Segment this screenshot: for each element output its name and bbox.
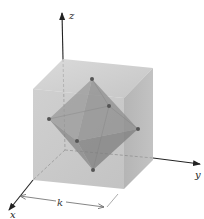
- vertex-front: [75, 139, 79, 143]
- vertex-top: [90, 77, 94, 81]
- dimension-label: k: [57, 197, 63, 208]
- x-axis-label: x: [10, 209, 16, 219]
- vertex-left: [47, 117, 51, 121]
- vertex-bottom: [91, 168, 95, 172]
- y-axis: [153, 158, 200, 164]
- dimension-tick-right: [107, 194, 118, 207]
- vertex-back: [107, 104, 111, 108]
- dimension-line-left: [20, 196, 56, 201]
- z-axis-label: z: [68, 10, 75, 21]
- vertex-right: [136, 127, 140, 131]
- y-axis-label: y: [194, 169, 201, 180]
- octahedron-in-cube-diagram: k z y x: [0, 0, 204, 219]
- x-axis: [9, 180, 33, 210]
- z-axis: [62, 13, 63, 59]
- dimension-k: k: [20, 194, 118, 208]
- dimension-line-right: [66, 202, 104, 207]
